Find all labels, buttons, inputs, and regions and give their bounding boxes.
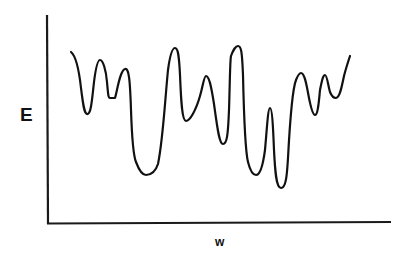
y-axis-label: E — [20, 104, 33, 125]
y-axis — [47, 15, 48, 224]
x-axis — [47, 222, 391, 224]
energy-landscape-chart: E w — [0, 0, 409, 255]
energy-curve — [71, 46, 350, 188]
x-axis-label: w — [214, 235, 225, 249]
